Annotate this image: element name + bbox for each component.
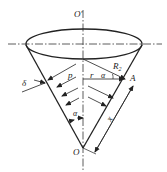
slant-dimension-line-back [95, 86, 133, 152]
pressure-arrow [62, 88, 78, 96]
label-half-angle: α [73, 109, 78, 118]
pressure-arrow [88, 86, 113, 98]
thickness-arrow [34, 80, 45, 83]
label-point-A: A [129, 73, 136, 83]
label-pressure: p [67, 70, 73, 80]
label-slant-length: x [104, 115, 115, 124]
angle-alpha-arc [113, 74, 114, 79]
half-angle-arrow-left [70, 120, 74, 121]
pressure-arrow [66, 98, 79, 105]
label-R2: R2 [112, 61, 122, 72]
label-thickness: δ [22, 78, 27, 88]
slant-extension [83, 148, 96, 154]
label-radius-r: r [90, 70, 94, 80]
label-apex: O [73, 147, 80, 157]
label-top-axis-point: O′ [74, 9, 83, 19]
pressure-arrow [57, 77, 76, 87]
cone-left-edge [26, 45, 83, 148]
cone-diagram: O′ R2 A r α p δ α O x [0, 0, 167, 172]
pressure-arrow [88, 97, 106, 106]
top-ellipse [26, 29, 142, 59]
